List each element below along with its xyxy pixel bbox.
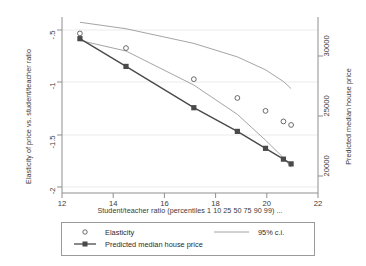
legend-elasticity-circle-icon — [83, 230, 87, 234]
elasticity-series-markers — [78, 31, 294, 127]
elasticity-marker — [78, 31, 83, 36]
price-series-line — [80, 39, 291, 164]
price-marker — [263, 146, 268, 151]
ci-lower-band — [80, 40, 291, 167]
ytick-label-right-1: 25000 — [322, 77, 331, 117]
elasticity-marker — [281, 119, 286, 124]
grid-lines — [62, 30, 318, 187]
x-axis-ticks — [62, 193, 318, 198]
elasticity-marker — [289, 123, 294, 128]
elasticity-marker — [263, 108, 268, 113]
ytick-label-left-2: -1.5 — [48, 136, 57, 176]
price-marker — [77, 36, 82, 41]
price-marker — [123, 64, 128, 69]
elasticity-marker — [235, 96, 240, 101]
elasticity-marker — [191, 77, 196, 82]
ytick-label-left-1: -1 — [48, 83, 57, 123]
y-axis-title-left: Elasticity of price vs. student/teacher … — [24, 37, 33, 197]
chart-figure: -.5 -1 -1.5 -2 30000 25000 20000 12 14 1… — [0, 0, 366, 266]
x-axis-title: Student/teacher ratio (percentiles 1 10 … — [62, 206, 318, 215]
legend-price-square-icon — [83, 242, 88, 247]
legend-label-price: Predicted median house price — [105, 240, 203, 249]
legend: Elasticity Predicted median house price … — [61, 222, 315, 256]
ytick-label-right-0: 30000 — [322, 17, 331, 57]
ci-upper-band — [80, 22, 291, 88]
y-axis-title-right: Predicted median house price — [344, 37, 353, 197]
price-series-markers — [77, 36, 293, 166]
legend-label-ci: 95% c.i. — [258, 228, 284, 237]
price-marker — [235, 129, 240, 134]
price-marker — [289, 161, 294, 166]
ytick-label-right-2: 20000 — [322, 137, 331, 177]
elasticity-marker — [124, 46, 129, 51]
left-axis-ticks — [57, 30, 62, 187]
legend-label-elasticity: Elasticity — [105, 228, 134, 237]
price-marker — [281, 157, 286, 162]
price-marker — [191, 105, 196, 110]
ytick-label-left-0: -.5 — [48, 31, 57, 71]
